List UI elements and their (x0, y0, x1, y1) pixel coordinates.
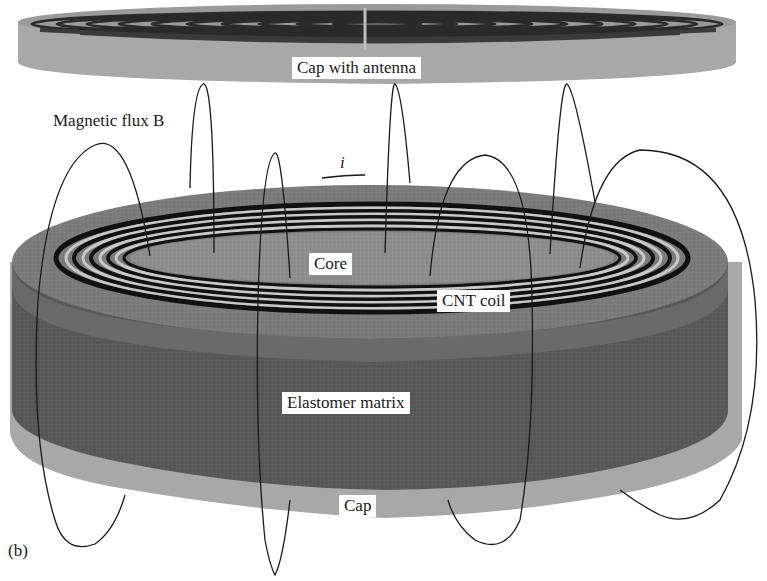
label-magnetic-flux: Magnetic flux B (53, 110, 164, 132)
label-elastomer-matrix: Elastomer matrix (282, 392, 410, 414)
label-cap: Cap (339, 495, 376, 517)
label-core: Core (309, 253, 352, 275)
cnt-coil-sensor-diagram (0, 0, 767, 581)
label-current: i (340, 152, 345, 174)
current-direction-arrow (322, 175, 365, 178)
label-cap-with-antenna: Cap with antenna (292, 57, 421, 79)
panel-label: (b) (8, 540, 28, 562)
label-cnt-coil: CNT coil (437, 290, 510, 312)
